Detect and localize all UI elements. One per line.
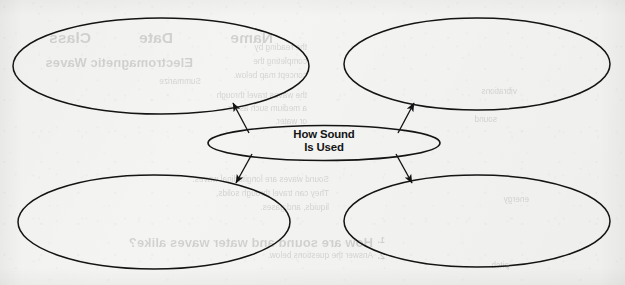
branch-ellipse-bottom-left[interactable] — [18, 175, 290, 269]
arrow-to-bottom-left — [236, 154, 252, 183]
arrow-to-top-right — [398, 103, 414, 133]
center-ellipse[interactable] — [208, 126, 440, 161]
worksheet-page: Name Date Class Electromagnetic Waves Su… — [0, 0, 625, 285]
concept-web-diagram — [0, 0, 625, 285]
branch-ellipse-top-right[interactable] — [344, 18, 610, 110]
branch-ellipse-top-left[interactable] — [13, 18, 309, 114]
branch-ellipse-bottom-right[interactable] — [344, 175, 610, 267]
arrow-to-bottom-right — [396, 154, 412, 183]
